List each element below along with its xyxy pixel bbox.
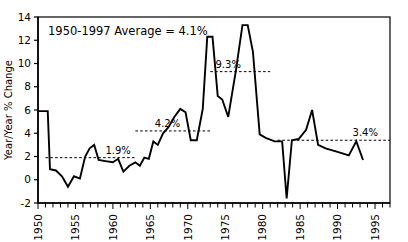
y-tick-label: 2 xyxy=(24,150,31,162)
y-tick-label: -2 xyxy=(21,197,31,209)
segment-average-label-9.3: 9.3% xyxy=(215,59,240,70)
y-tick-label: 12 xyxy=(18,34,31,46)
segment-average-label-3.4: 3.4% xyxy=(353,127,378,138)
segment-average-label-4.2: 4.2% xyxy=(155,118,180,129)
x-axis-tick-labels: 1950195519601965197019751980198519901995 xyxy=(32,214,381,241)
y-tick-label: 4 xyxy=(24,127,31,139)
x-tick-label: 1950 xyxy=(32,214,44,241)
chart-figure: -202468101214 19501955196019651970197519… xyxy=(0,0,408,242)
y-axis-title: Year/Year % Change xyxy=(3,60,14,161)
chart-canvas: -202468101214 19501955196019651970197519… xyxy=(0,0,408,242)
y-axis-tick-labels: -202468101214 xyxy=(18,11,32,209)
y-tick-label: 8 xyxy=(24,80,31,92)
y-tick-label: 0 xyxy=(24,173,31,185)
segment-average-label-1.9: 1.9% xyxy=(105,145,130,156)
y-tick-label: 10 xyxy=(18,57,31,69)
x-tick-label: 1995 xyxy=(369,214,381,241)
overall-average-label: 1950-1997 Average = 4.1% xyxy=(48,24,208,38)
x-tick-label: 1980 xyxy=(256,214,268,241)
x-tick-label: 1965 xyxy=(144,214,156,241)
x-tick-label: 1960 xyxy=(107,214,119,241)
x-tick-label: 1975 xyxy=(219,214,231,241)
x-tick-label: 1985 xyxy=(294,214,306,241)
y-tick-label: 14 xyxy=(18,11,32,23)
x-axis-ticks xyxy=(38,203,390,209)
x-tick-label: 1990 xyxy=(331,214,343,241)
x-tick-label: 1970 xyxy=(182,214,194,241)
y-tick-label: 6 xyxy=(24,104,31,116)
x-tick-label: 1955 xyxy=(69,214,81,241)
